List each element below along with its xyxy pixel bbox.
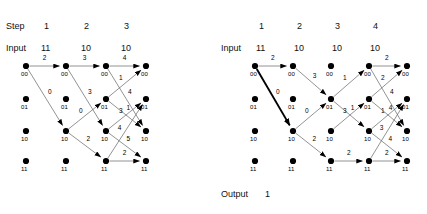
edge-metric-label: 0 xyxy=(276,89,280,96)
trellis-node[interactable] xyxy=(328,96,334,102)
trellis-node[interactable] xyxy=(404,128,410,134)
trellis-node[interactable] xyxy=(404,63,410,69)
trellis-node[interactable] xyxy=(23,63,29,69)
trellis-node[interactable] xyxy=(143,128,149,134)
trellis-node[interactable] xyxy=(252,96,258,102)
trellis-node[interactable] xyxy=(252,128,258,134)
trellis-node[interactable] xyxy=(63,63,69,69)
trellis-edge xyxy=(372,70,402,96)
right-trellis-graph xyxy=(213,0,427,214)
node-state-label: 10 xyxy=(141,136,148,142)
edge-metric-label: 1 xyxy=(381,108,385,115)
trellis-edge xyxy=(257,69,290,125)
edge-metric-label: 1 xyxy=(119,75,123,82)
right-trellis-panel: Input 1 2 3 4 11 10 10 10 00011011000110… xyxy=(213,0,427,214)
node-state-label: 11 xyxy=(402,166,408,172)
trellis-node[interactable] xyxy=(366,128,372,134)
node-state-label: 01 xyxy=(61,104,68,110)
edge-metric-label: 4 xyxy=(389,105,393,112)
trellis-node[interactable] xyxy=(143,158,149,164)
node-state-label: 11 xyxy=(141,166,147,172)
node-state-label: 00 xyxy=(250,71,257,77)
trellis-node[interactable] xyxy=(63,96,69,102)
node-state-label: 01 xyxy=(402,104,409,110)
trellis-node[interactable] xyxy=(290,63,296,69)
trellis-edge xyxy=(296,103,326,129)
trellis-node[interactable] xyxy=(143,96,149,102)
trellis-node[interactable] xyxy=(63,158,69,164)
edge-metric-label: 2 xyxy=(123,150,127,157)
edge-metric-label: 3 xyxy=(343,108,347,115)
trellis-node[interactable] xyxy=(103,158,109,164)
node-state-label: 11 xyxy=(326,166,332,172)
trellis-node[interactable] xyxy=(103,96,109,102)
trellis-edge xyxy=(296,68,326,94)
node-state-label: 00 xyxy=(326,71,333,77)
node-state-label: 01 xyxy=(141,104,148,110)
node-state-label: 11 xyxy=(288,166,294,172)
trellis-node[interactable] xyxy=(328,128,334,134)
trellis-edge xyxy=(109,103,141,129)
trellis-node[interactable] xyxy=(290,128,296,134)
trellis-node[interactable] xyxy=(103,128,109,134)
node-state-label: 10 xyxy=(250,136,257,142)
edge-metric-label: 1 xyxy=(343,75,347,82)
output-label: Output xyxy=(221,190,248,199)
edge-metric-label: 1 xyxy=(351,105,355,112)
node-state-label: 10 xyxy=(21,136,28,142)
node-state-label: 10 xyxy=(101,136,108,142)
node-state-label: 10 xyxy=(61,136,68,142)
edge-metric-label: 3 xyxy=(119,108,123,115)
node-state-label: 00 xyxy=(402,71,409,77)
trellis-edge xyxy=(69,133,101,157)
trellis-node[interactable] xyxy=(23,96,29,102)
trellis-node[interactable] xyxy=(404,158,410,164)
trellis-node[interactable] xyxy=(366,63,372,69)
output-value: 1 xyxy=(265,190,270,199)
trellis-edge xyxy=(69,103,101,129)
trellis-edge xyxy=(28,69,63,125)
trellis-node[interactable] xyxy=(23,158,29,164)
edge-metric-label: 3 xyxy=(88,89,92,96)
trellis-node[interactable] xyxy=(290,96,296,102)
edge-metric-label: 4 xyxy=(118,125,122,132)
node-state-label: 11 xyxy=(364,166,370,172)
node-state-label: 00 xyxy=(101,71,108,77)
node-state-label: 10 xyxy=(288,136,295,142)
node-state-label: 01 xyxy=(21,104,28,110)
trellis-node[interactable] xyxy=(252,63,258,69)
trellis-edge xyxy=(334,70,364,96)
trellis-node[interactable] xyxy=(328,158,334,164)
edge-metric-label: 2 xyxy=(385,150,389,157)
trellis-node[interactable] xyxy=(103,63,109,69)
trellis-node[interactable] xyxy=(366,158,372,164)
trellis-node[interactable] xyxy=(63,128,69,134)
left-trellis-panel: Step Input 1 2 3 11 10 10 00011011000110… xyxy=(0,0,213,214)
trellis-edge xyxy=(108,69,143,125)
node-state-label: 01 xyxy=(364,104,371,110)
node-state-label: 00 xyxy=(364,71,371,77)
edge-metric-label: 3 xyxy=(83,55,87,62)
trellis-node[interactable] xyxy=(143,63,149,69)
trellis-node[interactable] xyxy=(366,96,372,102)
edge-metric-label: 2 xyxy=(86,136,90,143)
edge-metric-label: 2 xyxy=(313,136,317,143)
edge-metric-label: 4 xyxy=(390,89,394,96)
edge-metric-label: 0 xyxy=(79,108,83,115)
trellis-node[interactable] xyxy=(404,96,410,102)
trellis-node[interactable] xyxy=(328,63,334,69)
edge-metric-label: 4 xyxy=(128,89,132,96)
edge-metric-label: 2 xyxy=(43,55,47,62)
node-state-label: 01 xyxy=(326,104,333,110)
trellis-edge xyxy=(371,69,404,125)
node-state-label: 00 xyxy=(61,71,68,77)
trellis-node[interactable] xyxy=(252,158,258,164)
trellis-edge xyxy=(372,103,402,129)
trellis-node[interactable] xyxy=(23,128,29,134)
edge-metric-label: 0 xyxy=(305,108,309,115)
edge-metric-label: 2 xyxy=(271,55,275,62)
node-state-label: 00 xyxy=(141,71,148,77)
trellis-node[interactable] xyxy=(290,158,296,164)
node-state-label: 10 xyxy=(364,136,371,142)
edge-metric-label: 2 xyxy=(381,75,385,82)
